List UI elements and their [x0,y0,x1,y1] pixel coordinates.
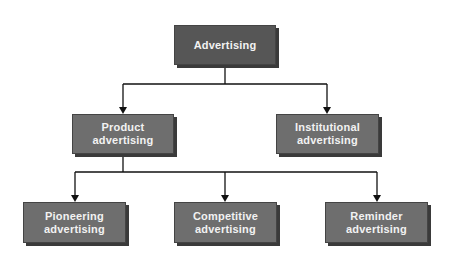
arrowhead-competitive [221,195,229,202]
node-institutional-advertising: Institutional advertising [276,114,379,154]
node-reminder-label: Reminder advertising [346,210,407,236]
label-line1: Competitive [193,210,258,222]
label-line2: advertising [195,223,256,235]
node-reminder-advertising: Reminder advertising [325,202,428,243]
node-competitive-advertising: Competitive advertising [174,202,277,243]
node-advertising-label: Advertising [194,39,257,52]
node-competitive-label: Competitive advertising [193,210,258,236]
node-product-advertising: Product advertising [72,114,174,154]
label-line2: advertising [93,134,154,146]
node-pioneering-advertising: Pioneering advertising [23,202,126,243]
label-line2: advertising [297,134,358,146]
arrowhead-reminder [373,195,381,202]
arrowhead-institutional [323,107,331,114]
arrowhead-product [119,107,127,114]
node-institutional-label: Institutional advertising [295,121,360,147]
label-line1: Product [102,121,145,133]
label-line2: advertising [44,223,105,235]
label-line1: Reminder [350,210,402,222]
label-line1: Institutional [295,121,360,133]
label-line2: advertising [346,223,407,235]
node-product-label: Product advertising [93,121,154,147]
node-pioneering-label: Pioneering advertising [44,210,105,236]
node-advertising: Advertising [174,25,276,65]
label-line1: Pioneering [45,210,104,222]
arrowhead-pioneering [71,195,79,202]
